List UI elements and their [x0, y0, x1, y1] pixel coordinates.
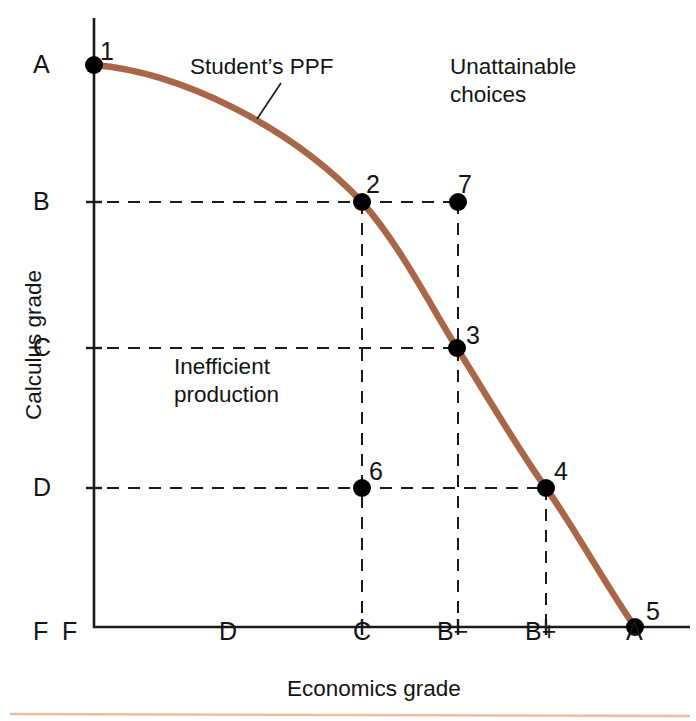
- ppf-plot-canvas: [0, 0, 696, 721]
- data-point-3[interactable]: [448, 339, 466, 357]
- point-label-3: 3: [466, 321, 480, 349]
- point-label-2: 2: [366, 170, 380, 198]
- inefficient-annotation-line2: production: [174, 382, 279, 407]
- x-tick-label-D: D: [219, 617, 237, 645]
- y-tick-label-F: F: [33, 617, 48, 645]
- unattainable-annotation-line1: Unattainable: [450, 54, 576, 79]
- footer-rule: [10, 714, 690, 716]
- vertical-guide-lines: [362, 202, 546, 635]
- ppf-curve: [94, 65, 635, 627]
- x-tick-label-A: A: [626, 617, 643, 645]
- point-label-6: 6: [369, 457, 383, 485]
- y-tick-label-A: A: [33, 50, 50, 78]
- ppf-label-leader-line: [257, 83, 281, 119]
- x-axis-title: Economics grade: [287, 676, 461, 701]
- axis-lines: [93, 18, 690, 628]
- point-label-4: 4: [554, 457, 568, 485]
- x-tick-label-F: F: [62, 617, 77, 645]
- unattainable-annotation-line2: choices: [450, 82, 526, 107]
- ppf-annotation-label: Student’s PPF: [190, 54, 333, 79]
- y-axis-title: Calculus grade: [21, 270, 46, 420]
- x-tick-label-Bminus: B−: [437, 617, 469, 645]
- point-label-5: 5: [646, 597, 660, 625]
- data-points: [85, 56, 644, 636]
- y-tick-label-D: D: [33, 473, 51, 501]
- y-tick-label-B: B: [33, 187, 50, 215]
- data-point-4[interactable]: [537, 479, 555, 497]
- ppf-chart-figure: A B C D F F D C B− B+ A Calculus grade E…: [0, 0, 696, 721]
- point-label-1: 1: [100, 37, 114, 65]
- x-tick-label-C: C: [353, 617, 371, 645]
- inefficient-annotation-line1: Inefficient: [174, 354, 270, 379]
- point-label-7: 7: [458, 170, 472, 198]
- x-tick-label-Bplus: B+: [525, 617, 557, 645]
